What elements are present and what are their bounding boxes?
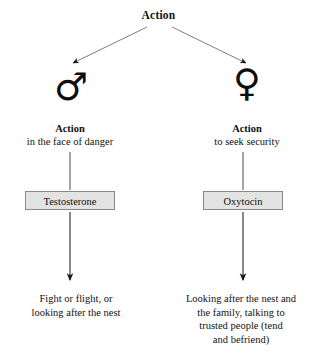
male-outcome-text: Fight or flight, orlooking after the nes… — [3, 292, 149, 319]
male-symbol: ♂ — [36, 68, 106, 106]
diagram-root-title: Action — [0, 9, 317, 21]
outcome-line-2: trusted people (tend — [168, 319, 314, 333]
male-action-subtext: in the face of danger — [5, 135, 135, 148]
diagram-canvas: Action ♂ ♀ Action in the face of danger … — [0, 0, 317, 361]
outcome-line-3: and befriend) — [168, 333, 314, 347]
female-outcome-text: Looking after the nest andthe family, ta… — [168, 292, 314, 346]
outcome-line-1: the family, talking to — [168, 306, 314, 320]
female-action-subtext: to seek security — [182, 135, 312, 148]
arrow-action-to-male — [73, 27, 147, 63]
male-action-header: Action — [5, 122, 135, 135]
female-action-label: Action to seek security — [182, 122, 312, 148]
outcome-line-0: Fight or flight, or — [3, 292, 149, 306]
outcome-line-1: looking after the nest — [3, 306, 149, 320]
male-action-label: Action in the face of danger — [5, 122, 135, 148]
hormone-box-oxytocin: Oxytocin — [203, 191, 283, 210]
female-action-header: Action — [182, 122, 312, 135]
outcome-line-0: Looking after the nest and — [168, 292, 314, 306]
hormone-box-testosterone: Testosterone — [25, 191, 115, 210]
arrow-action-to-female — [172, 27, 246, 63]
female-symbol: ♀ — [212, 64, 282, 102]
